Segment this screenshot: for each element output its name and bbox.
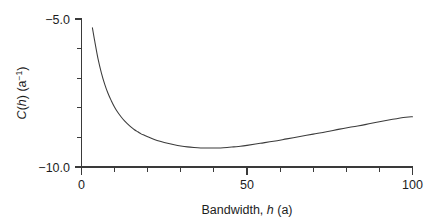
y-axis-minor-ticks [77, 49, 82, 138]
x-axis-title-prefix: Bandwidth, [201, 203, 266, 217]
x-tick-label-0: 0 [78, 178, 85, 192]
x-tick-label-100: 100 [402, 178, 423, 192]
chart-figure: −5.0 −10.0 0 50 100 Bandwidth, h (a) C(h… [0, 0, 438, 224]
y-axis-title-close: ) (a [15, 80, 29, 99]
y-axis-title-superscript: −1 [14, 71, 24, 81]
data-series-line [92, 28, 412, 148]
y-tick-label-top: −5.0 [45, 13, 70, 27]
y-axis-major-ticks [75, 19, 82, 167]
chart-plot-area: −5.0 −10.0 0 50 100 Bandwidth, h (a) C(h… [0, 0, 438, 224]
y-axis-title-italic: h [15, 99, 29, 106]
y-axis-title-tail: ) [15, 67, 29, 71]
x-axis-major-ticks [82, 167, 413, 175]
x-axis-title-suffix: (a) [274, 203, 293, 217]
y-axis-title: C(h) (a−1) [14, 67, 30, 120]
x-axis-title-italic: h [267, 203, 274, 217]
y-tick-label-bottom: −10.0 [38, 161, 70, 175]
x-axis-title: Bandwidth, h (a) [201, 203, 292, 217]
x-tick-label-50: 50 [240, 178, 254, 192]
